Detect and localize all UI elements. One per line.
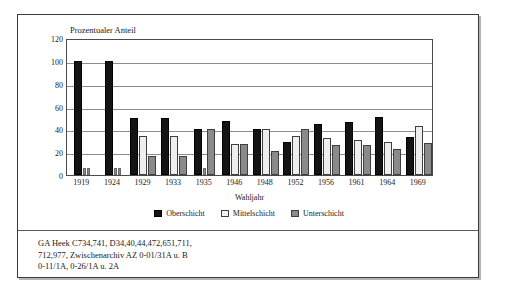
bar-group-1919 (67, 40, 98, 175)
x-tick-label-1919: 1919 (73, 178, 89, 187)
bar-1935-unterschicht (207, 129, 215, 175)
bar-1935-mittelschicht (203, 168, 206, 175)
bar-1956-unterschicht (332, 145, 340, 175)
x-tick-label-1946: 1946 (226, 178, 242, 187)
bar-1964-oberschicht (375, 117, 383, 175)
bar-group-1948 (251, 40, 282, 175)
bar-1935-oberschicht (194, 129, 202, 175)
y-tick-label-0: 0 (20, 172, 66, 181)
bar-1952-oberschicht (283, 142, 291, 175)
plot-inner (67, 40, 432, 175)
x-axis-title: Wahljahr (66, 193, 433, 202)
bar-1961-mittelschicht (354, 140, 362, 175)
x-tick-label-1956: 1956 (318, 178, 334, 187)
bar-1924-mittelschicht (114, 168, 117, 175)
bar-1956-mittelschicht (323, 138, 331, 175)
legend-item-unterschicht: Unterschicht (291, 209, 344, 218)
light-outlined-square-icon (221, 210, 229, 217)
chart-region: Prozentualer Anteil 020406080100120 1919… (18, 15, 480, 197)
bar-1948-mittelschicht (262, 129, 270, 175)
x-tick-label-1952: 1952 (287, 178, 303, 187)
source-note-line-1: GA Heek C734,741, D34,40,44,472,651,711, (38, 238, 192, 250)
y-tick-label-120: 120 (20, 35, 66, 44)
source-note-line-3: 0-11/1A, 0-26/1A u. 2A (38, 261, 192, 273)
bar-group-1964 (373, 40, 404, 175)
x-tick-label-1961: 1961 (349, 178, 365, 187)
bar-1952-mittelschicht (292, 136, 300, 175)
bar-1933-oberschicht (161, 118, 169, 175)
bar-1948-unterschicht (271, 151, 279, 175)
bar-1969-unterschicht (424, 143, 432, 175)
footer-divider (18, 230, 478, 231)
legend-label: Oberschicht (166, 209, 205, 218)
x-axis-tick-labels: 1919192419291933193519461948195219561961… (66, 178, 433, 192)
plot-area (66, 39, 433, 176)
bar-1969-oberschicht (406, 137, 414, 175)
x-tick-label-1933: 1933 (165, 178, 181, 187)
y-tick-label-40: 40 (20, 126, 66, 135)
source-note-line-2: 712,977, Zwischenarchiv AZ 0-01/31A u. B (38, 250, 192, 262)
x-tick-label-1935: 1935 (196, 178, 212, 187)
dark-filled-square-icon (154, 210, 162, 217)
bar-1969-mittelschicht (415, 126, 423, 175)
y-tick-label-20: 20 (20, 149, 66, 158)
bar-1924-oberschicht (105, 61, 113, 175)
bar-group-1946 (220, 40, 251, 175)
y-axis-title: Prozentualer Anteil (70, 25, 136, 35)
bar-1919-oberschicht (74, 61, 82, 175)
legend-item-oberschicht: Oberschicht (154, 209, 205, 218)
y-tick-label-80: 80 (20, 80, 66, 89)
source-note: GA Heek C734,741, D34,40,44,472,651,711,… (38, 238, 192, 273)
bar-1929-oberschicht (130, 118, 138, 175)
bar-1964-mittelschicht (384, 142, 392, 175)
bar-1933-unterschicht (179, 156, 187, 175)
legend-label: Unterschicht (303, 209, 344, 218)
bar-group-1935 (189, 40, 220, 175)
bar-group-1956 (312, 40, 343, 175)
bar-1919-unterschicht (87, 168, 90, 175)
chart-legend: OberschichtMittelschichtUnterschicht (18, 209, 480, 218)
bar-group-1929 (128, 40, 159, 175)
bar-group-1969 (403, 40, 434, 175)
bar-1948-oberschicht (253, 129, 261, 175)
bar-1961-unterschicht (363, 145, 371, 175)
y-tick-label-60: 60 (20, 103, 66, 112)
bar-1929-unterschicht (148, 156, 156, 175)
y-axis-tick-labels: 020406080100120 (18, 39, 66, 176)
y-tick-label-100: 100 (20, 57, 66, 66)
x-tick-label-1948: 1948 (257, 178, 273, 187)
bar-group-1924 (98, 40, 129, 175)
x-tick-label-1929: 1929 (134, 178, 150, 187)
x-tick-label-1964: 1964 (379, 178, 395, 187)
bar-group-1961 (342, 40, 373, 175)
bar-1946-unterschicht (240, 144, 248, 175)
bar-1929-mittelschicht (139, 136, 147, 175)
figure-card: Prozentualer Anteil 020406080100120 1919… (17, 14, 479, 278)
bar-1946-oberschicht (222, 121, 230, 175)
gray-filled-square-icon (291, 210, 299, 217)
x-tick-label-1969: 1969 (410, 178, 426, 187)
x-tick-label-1924: 1924 (104, 178, 120, 187)
bar-group-1933 (159, 40, 190, 175)
bar-1961-oberschicht (345, 122, 353, 175)
bar-1924-unterschicht (118, 168, 121, 175)
bar-1919-mittelschicht (83, 168, 86, 175)
bar-1964-unterschicht (393, 149, 401, 175)
bar-1952-unterschicht (301, 129, 309, 175)
bar-1956-oberschicht (314, 124, 322, 175)
legend-item-mittelschicht: Mittelschicht (221, 209, 275, 218)
bar-1946-mittelschicht (231, 144, 239, 175)
bar-group-1952 (281, 40, 312, 175)
bar-1933-mittelschicht (170, 136, 178, 175)
legend-label: Mittelschicht (233, 209, 275, 218)
